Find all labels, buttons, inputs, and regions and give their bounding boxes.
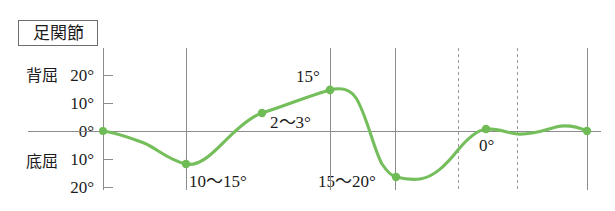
marker-terminal-swing [583,127,591,135]
marker-midstance [258,109,266,117]
marker-terminal-stance [326,86,335,95]
marker-midswing [482,125,490,133]
gridlines-dashed [459,48,518,190]
marker-loading-response [182,160,190,168]
ankle-angle-curve [103,89,587,180]
marker-preswing [392,173,400,181]
plot-area [0,0,615,211]
gridlines-solid [104,48,588,190]
marker-initial-contact [99,127,107,135]
ankle-joint-gait-chart: 足関節 背屈 底屈 20° 10° 0° 10° 20° 15° 2〜3° 10… [0,0,615,211]
